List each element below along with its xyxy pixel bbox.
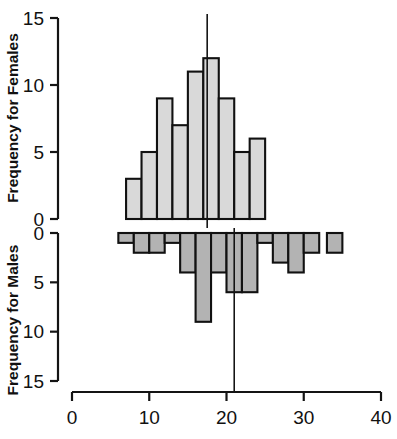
y-ticklabel-males: 5 <box>33 272 44 293</box>
x-ticklabel: 30 <box>293 407 314 428</box>
x-ticklabel: 10 <box>139 407 160 428</box>
female-bar <box>157 98 172 219</box>
x-ticklabel: 20 <box>216 407 237 428</box>
female-bar <box>234 152 249 219</box>
y-axis-title-males: Frequency for Males <box>4 245 21 396</box>
y-ticklabel-males: 15 <box>23 371 44 392</box>
y-axis-title-females: Frequency for Females <box>4 33 21 203</box>
male-bar <box>211 233 226 272</box>
male-bar <box>327 233 342 253</box>
male-bar <box>304 233 319 253</box>
male-bar <box>165 233 180 243</box>
female-bar <box>188 72 203 219</box>
chart-container: 051015Frequency for Females051015Frequen… <box>0 0 397 439</box>
female-bar <box>126 179 141 219</box>
male-bar <box>149 233 164 253</box>
y-ticklabel-females: 5 <box>33 142 44 163</box>
female-bar <box>203 58 218 219</box>
male-bar <box>242 233 257 292</box>
male-bar <box>196 233 211 322</box>
male-bar <box>273 233 288 263</box>
y-ticklabel-males: 0 <box>33 223 44 244</box>
male-bar <box>134 233 149 253</box>
female-bar <box>250 139 265 219</box>
female-bar <box>172 125 187 219</box>
female-bar <box>219 98 234 219</box>
back-to-back-histogram: 051015Frequency for Females051015Frequen… <box>0 0 397 439</box>
male-bar <box>257 233 272 243</box>
x-ticklabel: 40 <box>370 407 391 428</box>
male-bar <box>288 233 303 272</box>
male-bars-group <box>118 233 342 322</box>
y-ticklabel-males: 10 <box>23 321 44 342</box>
male-bar <box>180 233 195 272</box>
y-ticklabel-females: 10 <box>23 75 44 96</box>
female-bar <box>142 152 157 219</box>
female-bars-group <box>126 58 265 219</box>
x-ticklabel: 0 <box>67 407 78 428</box>
male-bar <box>118 233 133 243</box>
y-ticklabel-females: 15 <box>23 8 44 29</box>
